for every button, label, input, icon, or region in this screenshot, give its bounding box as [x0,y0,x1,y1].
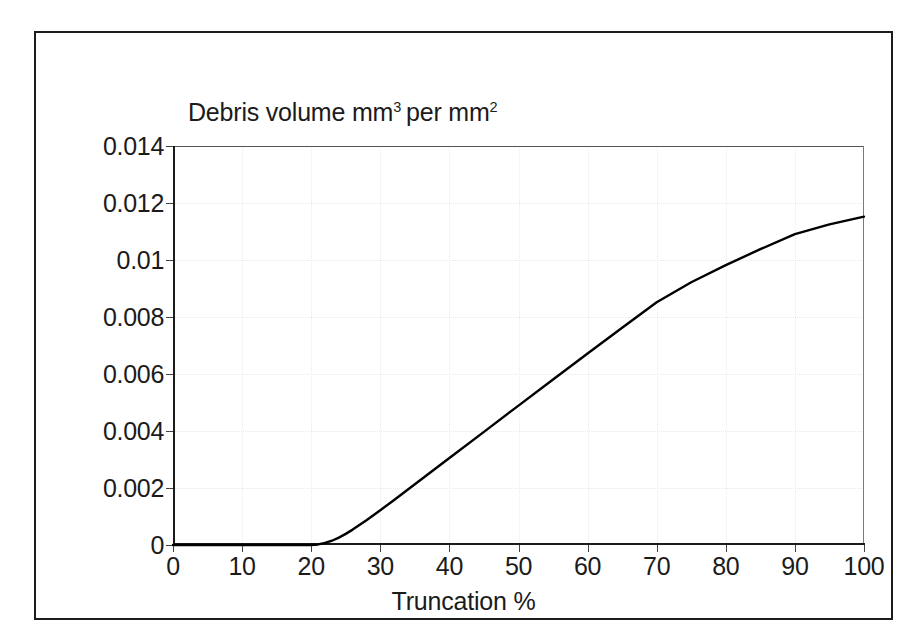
x-axis-tick [588,545,589,552]
chart-title-lead: Debris volume mm [188,98,393,126]
chart-title-superscript-2: 2 [490,99,498,115]
y-axis-tick-label: 0.01 [117,246,164,275]
figure-frame: Debris volume mm3per mm2 00.0020.0040.00… [34,31,893,620]
x-axis-tick-label: 50 [505,552,532,581]
x-axis-tick-label: 90 [781,552,808,581]
x-axis-tick-label: 20 [298,552,325,581]
chart-title: Debris volume mm3per mm2 [188,98,497,127]
x-axis-title: Truncation % [36,587,891,616]
y-axis-tick-label: 0 [150,531,164,560]
plot-area [173,146,864,545]
x-axis-tick-label: 10 [228,552,255,581]
x-axis-tick-label: 40 [436,552,463,581]
x-axis-tick [519,545,520,552]
x-axis-tick-label: 70 [643,552,670,581]
x-axis-tick [864,545,865,552]
x-axis-tick-label: 0 [166,552,180,581]
y-axis-tick-label: 0.004 [103,417,164,446]
y-axis-tick [166,146,173,147]
x-axis-tick-labels: 0102030405060708090100 [173,552,873,586]
y-axis-tick [166,317,173,318]
y-axis-tick [166,203,173,204]
y-axis-tick-label: 0.008 [103,303,164,332]
y-axis-tick [166,488,173,489]
x-axis-tick [657,545,658,552]
x-axis-tick [726,545,727,552]
x-axis-tick [449,545,450,552]
y-axis-tick-label: 0.012 [103,189,164,218]
y-axis-tick-label: 0.002 [103,474,164,503]
y-axis-tick-label: 0.014 [103,132,164,161]
x-axis-tick [380,545,381,552]
x-axis-tick-label: 100 [844,552,885,581]
x-axis-tick-label: 30 [367,552,394,581]
x-axis-tick [795,545,796,552]
y-axis-tick-label: 0.006 [103,360,164,389]
data-series-line [173,217,864,545]
chart-title-superscript-3: 3 [393,99,401,115]
y-axis-tick-labels: 00.0020.0040.0060.0080.010.0120.014 [36,146,164,545]
y-axis-tick [166,431,173,432]
y-axis-tick [166,260,173,261]
x-axis-tick-label: 60 [574,552,601,581]
series-line-debris-volume [173,146,864,545]
y-axis-tick [166,374,173,375]
chart-title-mid: per mm [406,98,490,126]
x-axis-tick-label: 80 [712,552,739,581]
